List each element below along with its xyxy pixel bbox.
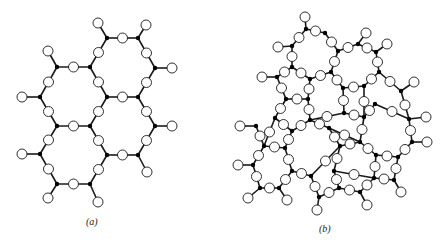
oxygen-atom-icon xyxy=(284,155,294,165)
oxygen-atom-icon xyxy=(367,74,377,84)
cation-dot-icon xyxy=(283,146,287,150)
oxygen-atom-icon xyxy=(142,107,152,117)
oxygen-atom-icon xyxy=(69,179,79,189)
oxygen-atom-icon xyxy=(142,136,152,146)
terminal-oxygen-atom-icon xyxy=(93,197,103,207)
oxygen-atom-icon xyxy=(385,77,395,87)
cation-dot-icon xyxy=(396,155,400,159)
oxygen-atom-icon xyxy=(94,48,104,58)
cation-dot-icon xyxy=(290,65,294,69)
oxygen-layer xyxy=(233,12,432,215)
oxygen-atom-icon xyxy=(276,104,286,114)
oxygen-atom-icon xyxy=(44,164,54,174)
cation-dot-icon xyxy=(105,153,109,157)
cation-dot-icon xyxy=(362,84,366,88)
cation-dot-icon xyxy=(358,140,362,144)
cation-dot-icon xyxy=(342,111,346,115)
oxygen-atom-icon xyxy=(349,110,359,120)
oxygen-atom-icon xyxy=(294,33,304,43)
cation-dot-icon xyxy=(136,95,140,99)
cation-dot-icon xyxy=(262,144,266,148)
oxygen-atom-icon xyxy=(370,162,380,172)
cation-dot-icon xyxy=(410,140,414,144)
oxygen-atom-icon xyxy=(69,121,79,131)
cation-dot-icon xyxy=(136,36,140,40)
oxygen-atom-icon xyxy=(322,112,332,122)
oxygen-atom-icon xyxy=(315,119,325,129)
cation-dot-icon xyxy=(38,152,42,156)
cation-dot-icon xyxy=(290,169,294,173)
oxygen-atom-icon xyxy=(265,127,275,137)
terminal-oxygen-atom-icon xyxy=(273,42,283,52)
oxygen-atom-icon xyxy=(330,132,340,142)
terminal-oxygen-atom-icon xyxy=(141,20,151,30)
cation-dot-icon xyxy=(356,42,360,46)
terminal-oxygen-atom-icon xyxy=(409,77,419,87)
cation-dot-icon xyxy=(358,190,362,194)
glass-network-diagram xyxy=(221,0,442,243)
panel-a-crystalline-network: (a) xyxy=(0,0,221,243)
oxygen-atom-icon xyxy=(382,151,392,161)
caption-b: (b) xyxy=(319,223,331,234)
cation-dot-icon xyxy=(254,124,258,128)
terminal-oxygen-atom-icon xyxy=(396,187,406,197)
oxygen-atom-icon xyxy=(252,172,262,182)
oxygen-atom-icon xyxy=(362,180,372,190)
terminal-oxygen-atom-icon xyxy=(93,18,103,28)
cation-dot-icon xyxy=(105,36,109,40)
oxygen-atom-icon xyxy=(44,77,54,87)
oxygen-atom-icon xyxy=(349,170,359,180)
oxygen-atom-icon xyxy=(304,105,314,115)
cation-dot-icon xyxy=(290,129,294,133)
oxygen-atom-icon xyxy=(345,185,355,195)
oxygen-atom-icon xyxy=(118,33,128,43)
terminal-oxygen-atom-icon xyxy=(43,193,53,203)
cation-dot-icon xyxy=(55,182,59,186)
oxygen-atom-icon xyxy=(373,57,383,67)
cation-dot-icon xyxy=(304,27,308,31)
cation-dot-icon xyxy=(55,124,59,128)
oxygen-atom-icon xyxy=(362,43,372,53)
cation-dot-icon xyxy=(273,116,277,120)
oxygen-atom-icon xyxy=(292,94,302,104)
oxygen-atom-icon xyxy=(297,169,307,179)
terminal-oxygen-atom-icon xyxy=(282,195,292,205)
panel-b-random-network: (b) xyxy=(221,0,442,243)
oxygen-atom-icon xyxy=(118,150,128,160)
oxygen-atom-icon xyxy=(406,126,416,136)
cation-dot-icon xyxy=(373,102,377,106)
terminal-oxygen-atom-icon xyxy=(167,121,177,131)
oxygen-atom-icon xyxy=(391,164,401,174)
oxygen-atom-icon xyxy=(316,71,326,81)
oxygen-atom-icon xyxy=(310,182,320,192)
cation-dot-icon xyxy=(153,66,157,70)
oxygen-atom-icon xyxy=(69,62,79,72)
terminal-oxygen-atom-icon xyxy=(243,193,253,203)
cation-dot-icon xyxy=(374,153,378,157)
oxygen-atom-icon xyxy=(363,144,373,154)
oxygen-atom-icon xyxy=(118,92,128,102)
terminal-oxygen-atom-icon xyxy=(43,46,53,56)
caption-a: (a) xyxy=(86,216,98,227)
cation-dot-icon xyxy=(374,50,378,54)
cation-dot-icon xyxy=(332,169,336,173)
oxygen-atom-icon xyxy=(279,120,289,130)
cation-dot-icon xyxy=(329,70,333,74)
terminal-oxygen-atom-icon xyxy=(17,92,27,102)
terminal-oxygen-atom-icon xyxy=(312,205,322,215)
cation-dot-icon xyxy=(258,186,262,190)
oxygen-atom-icon xyxy=(255,131,265,141)
oxygen-atom-icon xyxy=(94,165,104,175)
oxygen-atom-icon xyxy=(330,57,340,67)
oxygen-atom-icon xyxy=(359,97,369,107)
oxygen-atom-icon xyxy=(280,67,290,77)
cation-dot-icon xyxy=(38,95,42,99)
oxygen-atom-icon xyxy=(332,75,342,85)
oxygen-atom-icon xyxy=(340,130,350,140)
cation-dot-icon xyxy=(88,124,92,128)
terminal-oxygen-atom-icon xyxy=(167,63,177,73)
oxygen-atom-icon xyxy=(44,135,54,145)
oxygen-atom-icon xyxy=(296,68,306,78)
cation-dot-icon xyxy=(55,65,59,69)
terminal-oxygen-atom-icon xyxy=(422,137,432,147)
